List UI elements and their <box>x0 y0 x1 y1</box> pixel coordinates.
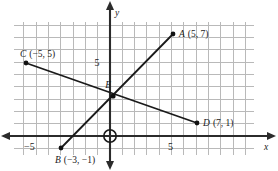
y-axis-arrow-up <box>106 1 114 10</box>
point-d-label: D(7, 1) <box>202 118 233 129</box>
point-c-label: C(−5, 5) <box>20 49 55 60</box>
point-e-dot <box>110 93 115 98</box>
point-d-dot <box>195 121 200 126</box>
x-axis-label: x <box>263 142 269 152</box>
axes <box>1 1 276 170</box>
point-a-label: A(5, 7) <box>178 29 208 40</box>
segment-ab <box>61 34 173 148</box>
point-e-label: E <box>104 80 111 90</box>
point-c-dot <box>24 61 29 66</box>
point-a-dot <box>171 32 176 37</box>
x-tick-label-five: 5 <box>168 141 173 152</box>
y-axis-label: y <box>114 8 120 18</box>
coordinate-plane-figure: A(5, 7) B(−3, −1) C(−5, 5) D(7, 1) E −5 … <box>0 0 278 171</box>
x-axis-arrow-left <box>1 132 10 140</box>
point-b-dot <box>59 146 64 151</box>
y-axis-arrow-down <box>106 161 114 170</box>
coordinate-plane-svg: A(5, 7) B(−3, −1) C(−5, 5) D(7, 1) E −5 … <box>0 0 278 171</box>
point-b-label: B(−3, −1) <box>55 155 95 166</box>
y-tick-label-five: 5 <box>95 57 100 68</box>
x-tick-label-negative-five: −5 <box>24 141 35 152</box>
x-axis-arrow-right <box>267 132 276 140</box>
